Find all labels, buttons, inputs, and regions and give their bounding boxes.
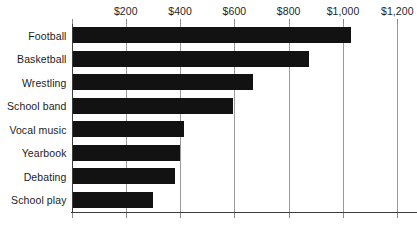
x-bottom-tick-200: [126, 213, 127, 218]
bar-rows: FootballBasketballWrestlingSchool bandVo…: [0, 24, 417, 213]
bar-row: Football: [0, 24, 417, 48]
bar-debating: [73, 168, 175, 184]
bar-row: School play: [0, 189, 417, 213]
bar-school-play: [73, 192, 153, 208]
category-label-basketball: Basketball: [17, 53, 66, 65]
x-tick-label-1200: $1,200: [381, 5, 414, 17]
bar-row: School band: [0, 95, 417, 119]
x-bottom-tick-400: [180, 213, 181, 218]
x-tick-label-600: $600: [223, 5, 247, 17]
category-label-vocal-music: Vocal music: [9, 124, 66, 136]
bar-chart: $200$400$600$800$1,000$1,200 FootballBas…: [0, 0, 417, 228]
bar-row: Debating: [0, 165, 417, 189]
plot-area: FootballBasketballWrestlingSchool bandVo…: [0, 24, 417, 213]
bar-football: [73, 27, 352, 43]
bar-yearbook: [73, 145, 181, 161]
x-bottom-tick-600: [234, 213, 235, 218]
category-label-debating: Debating: [24, 171, 67, 183]
x-bottom-tick-800: [289, 213, 290, 218]
x-tick-label-400: $400: [168, 5, 192, 17]
bar-row: Basketball: [0, 48, 417, 72]
category-label-school-band: School band: [7, 100, 66, 112]
x-axis-tick-labels: $200$400$600$800$1,000$1,200: [0, 5, 417, 19]
category-label-wrestling: Wrestling: [22, 77, 66, 89]
bar-wrestling: [73, 74, 254, 90]
x-bottom-tick-0: [72, 213, 73, 218]
bar-row: Wrestling: [0, 71, 417, 95]
bar-basketball: [73, 51, 310, 67]
x-bottom-tick-1200: [397, 213, 398, 218]
x-tick-label-1000: $1,000: [327, 5, 360, 17]
category-label-football: Football: [28, 30, 66, 42]
clipped-title-remnant: [4, 0, 304, 1]
x-bottom-tick-1000: [343, 213, 344, 218]
bar-row: Vocal music: [0, 118, 417, 142]
x-tick-label-800: $800: [277, 5, 301, 17]
x-tick-label-200: $200: [114, 5, 138, 17]
bar-vocal-music: [73, 121, 185, 137]
bar-school-band: [73, 98, 234, 114]
bar-row: Yearbook: [0, 142, 417, 166]
category-label-yearbook: Yearbook: [22, 147, 67, 159]
category-label-school-play: School play: [11, 194, 66, 206]
x-axis-bottom-ticks: [0, 213, 417, 218]
